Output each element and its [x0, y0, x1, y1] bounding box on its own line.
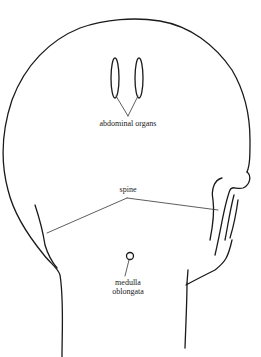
medulla-label-line1: medulla [115, 278, 141, 287]
abdominal-pointer-right [128, 96, 138, 116]
spine-pointer-left [47, 198, 127, 233]
medulla-label-line2: oblongata [112, 287, 144, 296]
medulla-circle [127, 253, 134, 260]
abdominal-organs-label: abdominal organs [100, 119, 157, 128]
ear-outer [215, 172, 250, 255]
head-diagram: abdominal organs spine medulla oblongata [0, 0, 261, 357]
neck-right-tick [187, 270, 188, 283]
right-organ-oval [135, 58, 143, 98]
abdominal-pointer-left [116, 96, 128, 116]
spine-label: spine [120, 185, 137, 194]
neck-right-contour [186, 240, 232, 285]
medulla-pointer [125, 260, 129, 276]
left-organ-oval [111, 58, 119, 98]
spine-pointer-right [127, 198, 218, 210]
neck-left-contour [35, 205, 57, 268]
neck-right-line [185, 283, 187, 348]
